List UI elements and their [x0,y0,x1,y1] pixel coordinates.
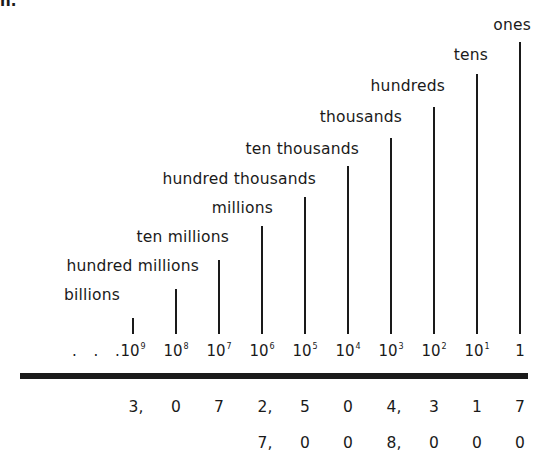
power-base: 10 [421,342,440,360]
power-of-ten: 108 [163,342,188,360]
place-pointer-line [132,318,134,334]
power-base: 10 [163,342,182,360]
leading-ellipsis: . . . [72,342,126,360]
place-label: ones [493,16,531,34]
place-pointer-line [390,138,392,334]
power-base: 10 [206,342,225,360]
example-digit: 0 [515,434,525,452]
example-digit: 2, [258,398,273,416]
example-digit: 0 [343,398,353,416]
power-exponent: 9 [141,342,146,351]
power-base: 10 [464,342,483,360]
example-digit: 0 [300,434,310,452]
power-exponent: 1 [485,342,490,351]
example-digit: 0 [171,398,181,416]
power-base: 10 [335,342,354,360]
power-of-ten: 106 [249,342,274,360]
place-pointer-line [175,289,177,334]
example-digit: 7 [214,398,224,416]
example-digit: 5 [300,398,310,416]
place-label: tens [454,46,488,64]
place-label: hundreds [371,77,445,95]
power-exponent: 2 [442,342,447,351]
example-digit: 3 [429,398,439,416]
separator-rule [20,373,528,379]
power-of-ten: 101 [464,342,489,360]
power-exponent: 8 [184,342,189,351]
place-pointer-line [519,42,521,334]
power-of-ten: 102 [421,342,446,360]
power-exponent: 5 [313,342,318,351]
power-of-ten: 105 [292,342,317,360]
power-exponent: 4 [356,342,361,351]
place-label: ten millions [137,228,229,246]
example-digit: 8, [387,434,402,452]
example-digit: 1 [472,398,482,416]
page-fragment: n. [0,0,16,10]
power-base: 10 [249,342,268,360]
example-digit: 7 [515,398,525,416]
place-label: ten thousands [246,140,359,158]
power-of-ten: 107 [206,342,231,360]
power-of-ten: 104 [335,342,360,360]
example-digit: 0 [472,434,482,452]
power-base: 10 [378,342,397,360]
power-base: 1 [515,342,525,360]
place-label: hundred thousands [162,170,316,188]
place-pointer-line [304,197,306,334]
example-digit: 7, [258,434,273,452]
example-digit: 4, [387,398,402,416]
example-digit: 3, [129,398,144,416]
power-base: 10 [292,342,311,360]
example-digit: 0 [343,434,353,452]
place-pointer-line [433,107,435,334]
place-label: thousands [320,108,402,126]
power-exponent: 6 [270,342,275,351]
power-exponent: 7 [227,342,232,351]
place-pointer-line [347,166,349,334]
place-label: millions [212,199,273,217]
place-pointer-line [476,74,478,334]
place-label: hundred millions [66,257,199,275]
power-exponent: 3 [399,342,404,351]
power-of-ten: 103 [378,342,403,360]
power-of-ten: 1 [515,342,525,360]
example-digit: 0 [429,434,439,452]
place-pointer-line [261,226,263,334]
place-label: billions [64,286,120,304]
place-pointer-line [218,260,220,334]
